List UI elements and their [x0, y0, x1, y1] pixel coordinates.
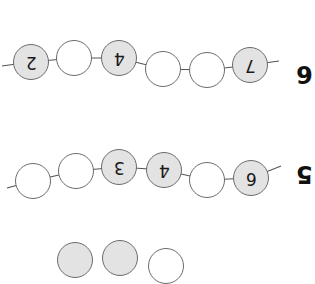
bead-empty[interactable]: [148, 248, 184, 284]
bead-empty[interactable]: [58, 153, 94, 189]
bead-number: 6: [246, 170, 257, 187]
bead-empty[interactable]: [15, 163, 51, 199]
bead-filled: 4: [101, 40, 137, 76]
bead-number: 7: [245, 57, 256, 74]
bead-number: 2: [26, 54, 37, 71]
bead-empty[interactable]: [189, 162, 225, 198]
bead-empty[interactable]: [145, 51, 181, 87]
bead-filled: 3: [101, 149, 137, 185]
bead-number: 3: [114, 159, 125, 176]
bead-filled: [57, 242, 93, 278]
bead-filled: 2: [13, 44, 49, 80]
bead-filled: [102, 240, 138, 276]
bead-number: 4: [159, 162, 170, 179]
row-label: 6: [296, 62, 313, 86]
bead-filled: 4: [146, 152, 182, 188]
bead-filled: 7: [232, 47, 268, 83]
bead-number: 4: [114, 50, 125, 67]
row-label: 5: [296, 162, 313, 186]
bead-filled: 6: [233, 160, 269, 196]
bead-empty[interactable]: [56, 40, 92, 76]
bead-empty[interactable]: [189, 52, 225, 88]
